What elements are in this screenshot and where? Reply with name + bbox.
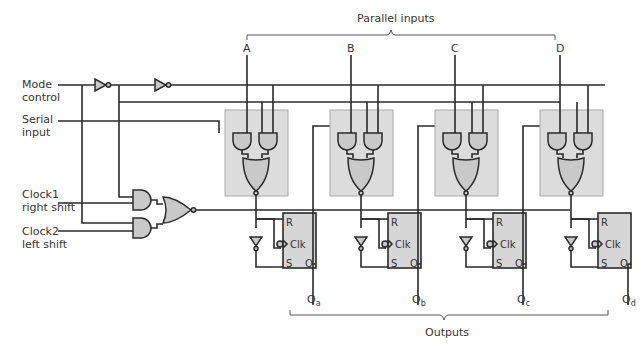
mode-control-label: Mode control	[22, 78, 60, 104]
inverter-icon	[95, 79, 106, 91]
parallel-input-C: C	[451, 42, 459, 55]
ff-s-label: S	[286, 257, 292, 270]
parallel-inputs-brace	[247, 30, 555, 40]
ff-q-label: Q	[620, 257, 628, 270]
serial-input-label: Serial input	[22, 113, 53, 139]
ff-q-label: Q	[515, 257, 523, 270]
output-qc: Qc	[517, 293, 530, 310]
stage-4	[540, 55, 631, 305]
stage-2	[330, 55, 421, 305]
circuit-svg	[0, 0, 644, 352]
nor-gate-icon	[163, 197, 191, 223]
ff-r-label: R	[391, 216, 398, 229]
output-qb: Qb	[412, 293, 426, 310]
parallel-input-D: D	[556, 42, 564, 55]
shift-register-diagram: Mode control Serial input Clock1 right s…	[0, 0, 644, 352]
ff-clk-label: Clk	[395, 238, 411, 251]
ff-r-label: R	[496, 216, 503, 229]
clock1-label: Clock1 right shift	[22, 188, 75, 214]
ff-clk-label: Clk	[605, 238, 621, 251]
ff-s-label: S	[391, 257, 397, 270]
stage-1	[225, 55, 316, 305]
parallel-inputs-label: Parallel inputs	[357, 12, 435, 25]
ff-r-label: R	[601, 216, 608, 229]
ff-clk-label: Clk	[500, 238, 516, 251]
ff-q-label: Q	[410, 257, 418, 270]
and-gate-icon	[133, 190, 151, 210]
parallel-input-A: A	[243, 42, 251, 55]
ff-clk-label: Clk	[290, 238, 306, 251]
and-gate-icon	[133, 218, 151, 238]
ff-q-label: Q	[305, 257, 313, 270]
parallel-input-B: B	[347, 42, 355, 55]
output-qa: Qa	[307, 293, 321, 310]
ff-s-label: S	[496, 257, 502, 270]
outputs-label: Outputs	[425, 326, 469, 339]
outputs-brace	[290, 310, 608, 320]
ff-r-label: R	[286, 216, 293, 229]
output-qd: Qd	[622, 293, 636, 310]
clock2-label: Clock2 left shift	[22, 225, 67, 251]
ff-s-label: S	[601, 257, 607, 270]
inverter-icon	[155, 79, 166, 91]
stage-3	[435, 55, 526, 305]
